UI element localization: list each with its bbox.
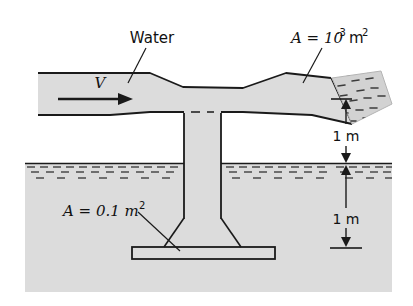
pipe-area-label: A = 0.1 m 2: [61, 200, 145, 220]
base-plate-body: [132, 247, 275, 259]
pipe-area-prefix: A = 0.1 m: [61, 202, 139, 220]
nozzle-area-label: A = 10 -3 m 2: [289, 27, 368, 47]
dimension-upper-label: 1 m: [333, 128, 360, 144]
suction-tube: [184, 112, 221, 219]
pipe-area-unit-exponent: 2: [139, 200, 145, 211]
suction-tube-body: [184, 112, 221, 219]
base-plate: [132, 247, 275, 259]
nozzle-area-exponent: -3: [336, 27, 346, 38]
nozzle-area-unit-exponent: 2: [362, 27, 368, 38]
water-label: Water: [130, 29, 175, 47]
dim-upper-arrowhead-bottom: [341, 153, 351, 163]
dimension-lower-label: 1 m: [333, 211, 360, 227]
diagram-canvas: Water V A = 10 -3 m 2 A = 0.1 m 2 1 m 1 …: [0, 0, 413, 306]
figure-container: Water V A = 10 -3 m 2 A = 0.1 m 2 1 m 1 …: [0, 0, 413, 306]
